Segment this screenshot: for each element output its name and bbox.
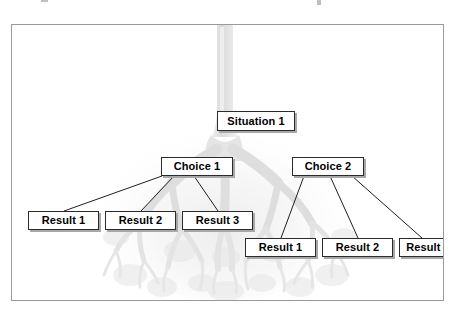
node-choice1-result-1[interactable]: Result 1 bbox=[28, 211, 99, 230]
node-choice2-result-1[interactable]: Result 1 bbox=[245, 238, 316, 257]
node-choice-2[interactable]: Choice 2 bbox=[292, 157, 364, 176]
link-choice2-result3 bbox=[352, 176, 422, 238]
node-situation-1[interactable]: Situation 1 bbox=[217, 111, 295, 131]
node-choice-1[interactable]: Choice 1 bbox=[161, 157, 233, 176]
node-choice1-result-2[interactable]: Result 2 bbox=[105, 211, 176, 230]
diagram-frame: Situation 1 Choice 1 Choice 2 Result 1 R… bbox=[11, 24, 444, 301]
link-choice1-result2 bbox=[141, 176, 174, 211]
slide-canvas: Situation 1 Choice 1 Choice 2 Result 1 R… bbox=[0, 0, 456, 316]
link-choice1-result3 bbox=[194, 176, 218, 211]
link-choice2-result2 bbox=[330, 176, 358, 238]
node-choice2-result-2[interactable]: Result 2 bbox=[322, 238, 393, 257]
top-text-fragment-left bbox=[41, 0, 48, 2]
link-choice2-result1 bbox=[281, 176, 304, 238]
node-choice2-result-3[interactable]: Result 3 bbox=[399, 238, 444, 257]
link-choice1-result1 bbox=[64, 176, 162, 211]
top-text-fragment-right bbox=[317, 0, 321, 5]
node-choice1-result-3[interactable]: Result 3 bbox=[182, 211, 253, 230]
